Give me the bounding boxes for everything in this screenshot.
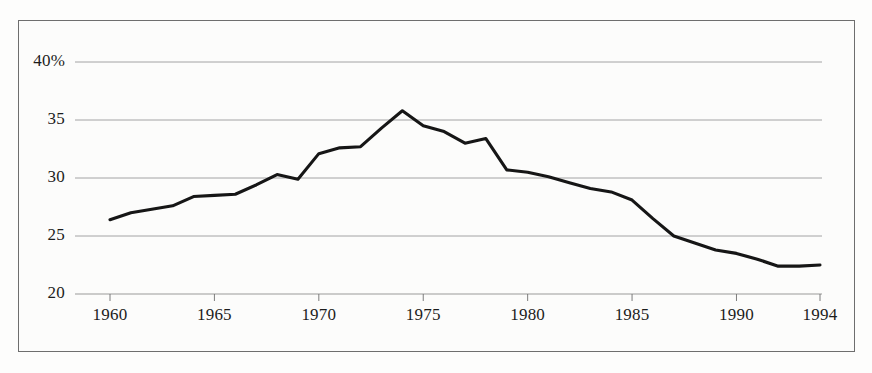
- x-tick-label-0: 1960: [70, 305, 150, 325]
- chart-figure: 40%35302520 1960196519701975198019851990…: [0, 0, 872, 373]
- y-tick-label-3: 25: [0, 225, 65, 245]
- y-tick-label-1: 35: [0, 109, 65, 129]
- y-tick-label-0: 40%: [0, 51, 65, 71]
- x-tick-label-6: 1990: [696, 305, 776, 325]
- x-tick-label-4: 1980: [488, 305, 568, 325]
- x-tick-label-7: 1994: [780, 305, 860, 325]
- data-line-series-1: [110, 111, 820, 266]
- y-tick-label-4: 20: [0, 283, 65, 303]
- gridlines: [75, 62, 822, 294]
- x-tick-label-1: 1965: [174, 305, 254, 325]
- data-line-group: [110, 111, 820, 266]
- x-tick-label-5: 1985: [592, 305, 672, 325]
- x-axis-ticks: [110, 294, 820, 301]
- y-tick-label-2: 30: [0, 167, 65, 187]
- x-tick-label-2: 1970: [279, 305, 359, 325]
- x-tick-label-3: 1975: [383, 305, 463, 325]
